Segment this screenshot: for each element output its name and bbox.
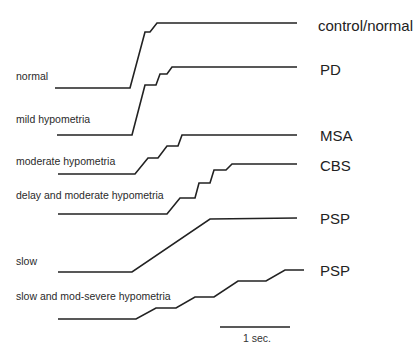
label-pd: PD — [320, 61, 341, 78]
label-normal: normal — [16, 70, 48, 82]
trace-control-normal — [55, 23, 297, 88]
label-psp-1: PSP — [320, 210, 350, 227]
trace-psp-slow — [58, 218, 297, 272]
label-psp-2: PSP — [320, 262, 350, 279]
traces-canvas — [0, 0, 416, 364]
scale-bar-label: 1 sec. — [243, 332, 271, 344]
label-control-normal: control/normal — [318, 17, 413, 34]
label-slow: slow — [16, 255, 37, 267]
label-slow-mod-severe-hypometria: slow and mod-severe hypometria — [16, 290, 171, 302]
label-cbs: CBS — [320, 157, 351, 174]
label-msa: MSA — [320, 127, 353, 144]
label-delay-moderate-hypometria: delay and moderate hypometria — [16, 189, 164, 201]
trace-pd — [57, 67, 297, 135]
label-mild-hypometria: mild hypometria — [16, 113, 90, 125]
label-moderate-hypometria: moderate hypometria — [16, 155, 115, 167]
